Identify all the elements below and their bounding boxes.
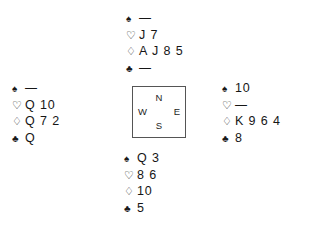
bridge-deal-diagram: ♠ — ♡ J 7 ♢ A J 8 5 ♣ — ♠ — ♡ Q 10 ♢ Q 7… [0, 0, 309, 228]
diamond-icon: ♢ [124, 183, 136, 200]
hand-east: ♠ 10 ♡ — ♢ K 9 6 4 ♣ 8 [222, 80, 281, 146]
east-club-row: ♣ 8 [222, 130, 281, 147]
heart-icon: ♡ [126, 27, 138, 44]
heart-icon: ♡ [124, 167, 136, 184]
heart-icon: ♡ [12, 97, 24, 114]
club-icon: ♣ [222, 131, 234, 148]
north-diamond-row: ♢ A J 8 5 [126, 43, 184, 60]
east-spade-cards: 10 [234, 80, 251, 97]
diamond-icon: ♢ [126, 43, 138, 60]
south-diamond-cards: 10 [136, 183, 153, 200]
heart-icon: ♡ [222, 97, 234, 114]
club-icon: ♣ [124, 201, 136, 218]
club-icon: ♣ [12, 131, 24, 148]
west-spade-row: ♠ — [12, 80, 60, 97]
south-heart-row: ♡ 8 6 [124, 167, 160, 184]
west-club-cards: Q [24, 130, 36, 147]
east-diamond-cards: K 9 6 4 [234, 113, 281, 130]
spade-icon: ♠ [12, 81, 24, 98]
compass-box: N W E S [132, 86, 186, 138]
west-club-row: ♣ Q [12, 130, 60, 147]
spade-icon: ♠ [126, 11, 138, 28]
south-club-cards: 5 [136, 200, 145, 217]
south-club-row: ♣ 5 [124, 200, 160, 217]
north-spade-row: ♠ — [126, 10, 184, 27]
east-diamond-row: ♢ K 9 6 4 [222, 113, 281, 130]
south-spade-row: ♠ Q 3 [124, 150, 160, 167]
north-spade-cards: — [138, 10, 151, 27]
west-heart-row: ♡ Q 10 [12, 97, 60, 114]
hand-west: ♠ — ♡ Q 10 ♢ Q 7 2 ♣ Q [12, 80, 60, 146]
compass-west-label: W [138, 107, 147, 117]
east-spade-row: ♠ 10 [222, 80, 281, 97]
north-heart-row: ♡ J 7 [126, 27, 184, 44]
south-diamond-row: ♢ 10 [124, 183, 160, 200]
west-spade-cards: — [24, 80, 37, 97]
east-club-cards: 8 [234, 130, 243, 147]
north-club-row: ♣ — [126, 60, 184, 77]
spade-icon: ♠ [124, 151, 136, 168]
north-diamond-cards: A J 8 5 [138, 43, 184, 60]
compass-east-label: E [174, 107, 180, 117]
hand-north: ♠ — ♡ J 7 ♢ A J 8 5 ♣ — [126, 10, 184, 76]
club-icon: ♣ [126, 61, 138, 78]
spade-icon: ♠ [222, 81, 234, 98]
hand-south: ♠ Q 3 ♡ 8 6 ♢ 10 ♣ 5 [124, 150, 160, 216]
compass-south-label: S [133, 121, 185, 131]
east-heart-cards: — [234, 97, 247, 114]
south-heart-cards: 8 6 [136, 167, 157, 184]
diamond-icon: ♢ [222, 113, 234, 130]
north-heart-cards: J 7 [138, 27, 158, 44]
diamond-icon: ♢ [12, 113, 24, 130]
west-diamond-cards: Q 7 2 [24, 113, 60, 130]
east-heart-row: ♡ — [222, 97, 281, 114]
west-diamond-row: ♢ Q 7 2 [12, 113, 60, 130]
north-club-cards: — [138, 60, 151, 77]
compass-north-label: N [133, 93, 185, 103]
west-heart-cards: Q 10 [24, 97, 56, 114]
south-spade-cards: Q 3 [136, 150, 160, 167]
